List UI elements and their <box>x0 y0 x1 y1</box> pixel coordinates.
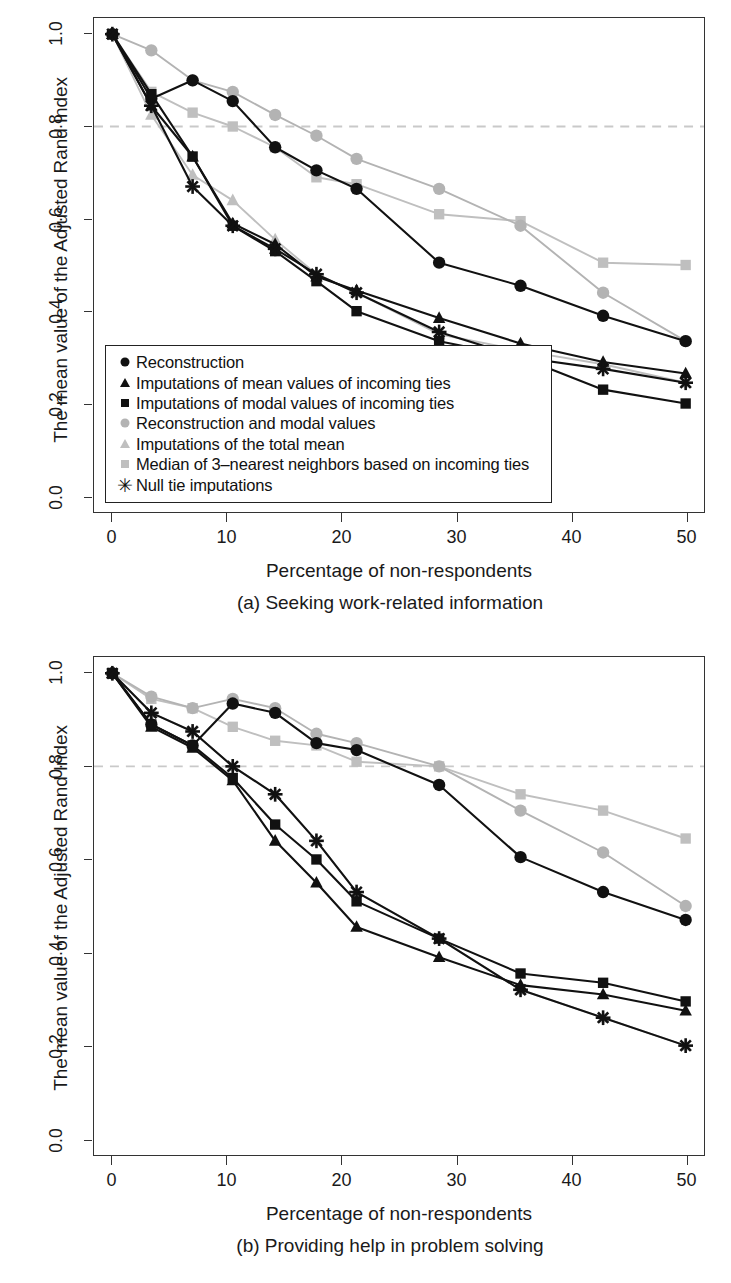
legend-item: Reconstruction <box>114 352 541 372</box>
data-point <box>186 702 198 714</box>
data-point <box>597 886 609 898</box>
data-point <box>680 260 690 270</box>
data-point <box>269 141 281 153</box>
y-tick-mark <box>84 311 92 312</box>
data-point <box>187 151 197 161</box>
x-tick-label: 50 <box>667 1170 707 1191</box>
data-point <box>144 98 159 113</box>
legend-item-label: Imputations of the total mean <box>136 434 344 454</box>
data-point <box>596 1010 611 1025</box>
data-point <box>309 267 324 282</box>
legend-item: Imputations of the total mean <box>114 434 541 454</box>
marker-glyph <box>121 358 130 367</box>
data-point <box>225 218 240 233</box>
legend-item-label: Reconstruction and modal values <box>136 413 375 433</box>
data-point <box>514 220 526 232</box>
y-tick-label: 0.8 <box>46 743 67 789</box>
y-tick-label: 0.4 <box>46 930 67 976</box>
data-point <box>227 697 239 709</box>
data-point <box>515 968 525 978</box>
y-tick-mark <box>84 33 92 34</box>
x-tick-label: 30 <box>437 527 477 548</box>
data-point <box>434 209 444 219</box>
data-point <box>105 666 120 681</box>
figure-page: The mean value of the Adjusted Rand Inde… <box>0 0 731 1283</box>
circle-marker-gray <box>114 413 136 433</box>
data-point <box>679 335 691 347</box>
data-point <box>598 978 608 988</box>
asterisk-marker-black: ✳ <box>114 475 136 495</box>
data-point <box>598 805 608 815</box>
y-tick-mark <box>84 1140 92 1141</box>
x-tick-mark <box>341 513 342 522</box>
y-tick-label: 0.6 <box>46 837 67 883</box>
marker-glyph <box>121 399 129 407</box>
data-point <box>270 736 280 746</box>
data-point <box>187 740 197 750</box>
data-point <box>680 996 690 1006</box>
x-tick-mark <box>687 1156 688 1165</box>
x-tick-mark <box>572 1156 573 1165</box>
data-point <box>597 287 609 299</box>
data-point <box>269 109 281 121</box>
y-axis-title-a: The mean value of the Adjusted Rand Inde… <box>44 0 78 520</box>
series-line <box>112 673 685 1045</box>
legend-item: ✳Null tie imputations <box>114 474 541 494</box>
data-point <box>145 690 157 702</box>
data-point <box>144 705 159 720</box>
marker-glyph <box>121 460 129 468</box>
x-tick-label: 30 <box>437 1170 477 1191</box>
caption-b: (b) Providing help in problem solving <box>60 1235 720 1257</box>
data-point <box>310 737 322 749</box>
data-point <box>105 27 120 42</box>
x-axis-title-a: Percentage of non-respondents <box>93 560 705 582</box>
y-tick-mark <box>84 219 92 220</box>
data-point <box>678 1038 693 1053</box>
marker-glyph <box>120 439 130 448</box>
data-point <box>350 744 362 756</box>
triangle-marker-black <box>114 373 136 393</box>
y-axis-title-b: The mean value of the Adjusted Rand Inde… <box>44 648 78 1168</box>
data-point <box>678 375 693 390</box>
data-point <box>270 819 280 829</box>
x-tick-label: 10 <box>206 527 246 548</box>
series-line <box>112 673 685 1010</box>
square-marker-black <box>114 393 136 413</box>
y-tick-mark <box>84 672 92 673</box>
data-point <box>309 833 324 848</box>
data-point <box>598 258 608 268</box>
data-point <box>597 310 609 322</box>
y-tick-label: 1.0 <box>46 650 67 696</box>
chart-panel-a: The mean value of the Adjusted Rand Inde… <box>0 0 731 640</box>
legend-item: Imputations of mean values of incoming t… <box>114 372 541 392</box>
legend-item: Reconstruction and modal values <box>114 413 541 433</box>
series-circle <box>106 667 692 912</box>
y-tick-label: 0.0 <box>46 1117 67 1163</box>
data-point <box>433 760 445 772</box>
data-point <box>351 306 361 316</box>
data-point <box>350 153 362 165</box>
series-line <box>112 34 685 265</box>
x-tick-label: 0 <box>91 527 131 548</box>
y-tick-mark <box>84 1046 92 1047</box>
data-point <box>432 325 447 340</box>
x-tick-mark <box>111 513 112 522</box>
legend-a: ReconstructionImputations of mean values… <box>105 345 552 503</box>
data-point <box>679 900 691 912</box>
x-tick-label: 0 <box>91 1170 131 1191</box>
y-tick-mark <box>84 953 92 954</box>
data-point <box>679 914 691 926</box>
data-point <box>146 719 156 729</box>
marker-glyph <box>120 378 130 387</box>
data-point <box>310 130 322 142</box>
series-line <box>112 673 685 1001</box>
data-point <box>185 724 200 739</box>
x-tick-mark <box>111 1156 112 1165</box>
x-tick-label: 50 <box>667 527 707 548</box>
series-line <box>112 34 685 383</box>
triangle-marker-gray <box>114 434 136 454</box>
data-point <box>228 722 238 732</box>
data-point <box>350 183 362 195</box>
legend-item-label: Imputations of mean values of incoming t… <box>136 373 451 393</box>
data-point <box>187 107 197 117</box>
